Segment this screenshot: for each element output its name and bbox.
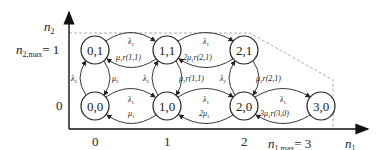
label-11-21-fwd: λ1 [202,37,209,47]
node-2-1: 2,1 [230,36,258,64]
x-tick-0: 0 [92,134,99,149]
edge-01-00-down [104,61,110,95]
svg-text:1,1: 1,1 [159,43,175,58]
label-10-20-fwd: λ1 [202,95,209,105]
label-10-00-back: μ1 [127,109,135,119]
label-v1-down: μ2r(1,1) [178,74,204,84]
label-v2-down: μ2r(2,1) [255,74,281,84]
label-20-30-fwd: λ1 [279,95,286,105]
label-11-01-back: μ1r(1,1) [115,53,141,63]
svg-text:0,0: 0,0 [87,99,103,114]
label-20-10-back: 2μ1 [199,109,210,119]
node-0-1: 0,1 [81,36,109,64]
svg-text:3,0: 3,0 [313,99,329,114]
node-2-0: 2,0 [230,92,258,120]
node-1-1: 1,1 [153,36,181,64]
edge-20-21-up [229,61,235,95]
y-tick-0: 0 [56,98,63,113]
label-v2-up: λ2 [219,74,226,84]
label-v0-up: λ2 [70,74,77,84]
svg-text:2,1: 2,1 [236,43,252,58]
label-21-11-back: 2μ1r(2,1) [183,53,212,63]
edge-00-01-up [80,61,86,95]
label-v1-up: λ2 [142,74,149,84]
y-axis-label: n2 [44,19,55,36]
label-01-11-fwd: λ1 [127,37,134,47]
node-3-0: 3,0 [307,92,335,120]
x-axis-label: n1 [345,136,356,150]
svg-text:0,1: 0,1 [87,43,103,58]
svg-text:2,0: 2,0 [236,99,252,114]
label-30-20-back: 3μ1r(3,0) [259,109,289,119]
node-0-0: 0,0 [81,92,109,120]
x-tick-1: 1 [164,134,171,149]
y-max-label: n2,max= 1 [16,42,59,59]
state-transition-diagram: n2 n1 n2,max= 1 0 0 1 2 n1,max= 3 0,1 1,… [0,0,384,150]
label-00-10-fwd: λ1 [127,95,134,105]
node-1-0: 1,0 [153,92,181,120]
edge-10-11-up [152,61,158,95]
x-max-label: n1,max= 3 [268,136,311,150]
x-tick-2: 2 [241,134,248,149]
label-v0-down: μ2 [111,74,119,84]
svg-text:1,0: 1,0 [159,99,175,114]
